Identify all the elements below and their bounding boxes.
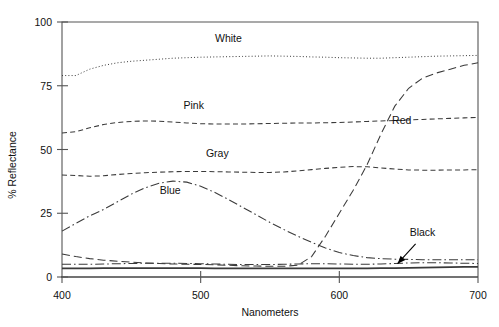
chart-background	[0, 0, 499, 327]
y-axis-title: % Reflectance	[6, 131, 18, 199]
y-tick-label: 0	[46, 271, 52, 283]
series-label-black: Black	[410, 226, 436, 238]
series-label-white: White	[215, 32, 242, 44]
chart-canvas: 0255075100 400500600700 WhitePinkGrayBlu…	[0, 0, 499, 327]
y-tick-label: 25	[40, 207, 52, 219]
reflectance-chart: 0255075100 400500600700 WhitePinkGrayBlu…	[0, 0, 499, 327]
x-tick-label: 600	[331, 289, 349, 301]
x-tick-label: 700	[469, 289, 487, 301]
x-tick-label: 400	[53, 289, 71, 301]
y-tick-label: 50	[40, 144, 52, 156]
x-tick-label: 500	[192, 289, 210, 301]
series-label-pink: Pink	[184, 99, 205, 111]
series-label-red: Red	[392, 114, 411, 126]
y-tick-label: 75	[40, 80, 52, 92]
series-label-blue: Blue	[160, 184, 181, 196]
x-axis-title: Nanometers	[241, 306, 298, 318]
series-label-gray: Gray	[206, 147, 230, 159]
y-tick-label: 100	[34, 16, 52, 28]
